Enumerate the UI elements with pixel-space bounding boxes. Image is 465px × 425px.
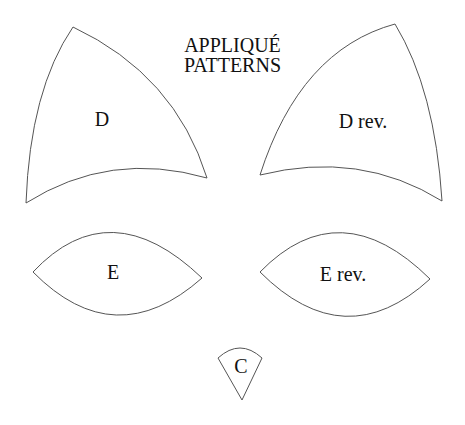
title-line-1: APPLIQUÉ xyxy=(0,35,465,55)
piece-d-rev-label: D rev. xyxy=(339,110,388,132)
piece-e-label: E xyxy=(107,261,119,283)
piece-e-rev-label: E rev. xyxy=(320,263,366,285)
title-line-2: PATTERNS xyxy=(0,55,465,75)
piece-c-label: C xyxy=(234,355,247,377)
piece-d-label: D xyxy=(95,108,109,130)
